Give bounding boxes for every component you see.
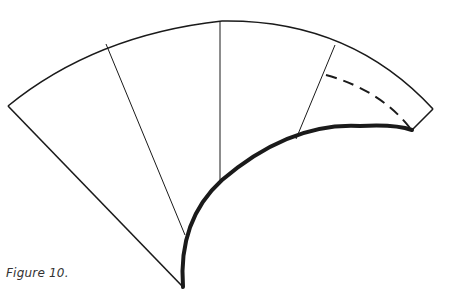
right-edge xyxy=(412,109,433,130)
dashed-line xyxy=(326,75,410,128)
inner-curve-thick xyxy=(182,126,412,288)
left-edge xyxy=(8,106,183,287)
divider-3 xyxy=(296,45,335,139)
divider-1 xyxy=(106,44,185,235)
pattern-diagram xyxy=(0,0,454,305)
figure-caption: Figure 10. xyxy=(6,266,69,280)
